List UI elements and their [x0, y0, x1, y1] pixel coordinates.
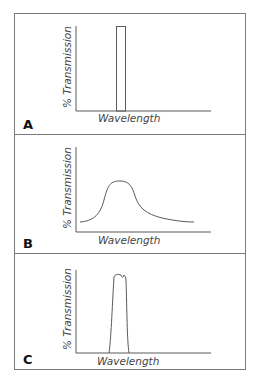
panel-c-y-axis-label: % Transmission [61, 268, 73, 350]
panel-a-curve [117, 27, 126, 112]
panel-a-x-axis-label: Wavelength [98, 112, 160, 124]
panel-a-y-axis-label: % Transmission [61, 26, 73, 108]
panel-a-label: A [23, 117, 33, 132]
panel-b-y-axis-label: % Transmission [61, 147, 73, 229]
panel-b-curve [80, 181, 194, 222]
panel-c-label: C [23, 352, 33, 367]
panel-a-axes [76, 26, 211, 111]
panel-b-label: B [23, 236, 33, 251]
panel-b-x-axis-label: Wavelength [98, 234, 160, 246]
panel-b-axes [76, 147, 211, 232]
panel-c-curve [109, 274, 129, 353]
panel-c-axes [76, 270, 211, 353]
plots [0, 0, 257, 388]
panel-c-x-axis-label: Wavelength [97, 355, 159, 367]
